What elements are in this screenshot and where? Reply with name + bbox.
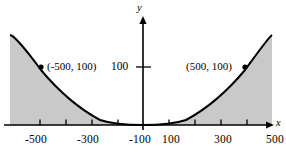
x-tick-label-300: 300 [214, 134, 232, 146]
x-tick-label-100: 100 [162, 134, 180, 146]
y-axis-arrowhead [139, 16, 146, 24]
point-marker-left [38, 64, 43, 69]
point-label-right: (500, 100) [186, 61, 232, 72]
x-tick-label-neg500: -500 [25, 134, 47, 146]
x-tick-label-neg300: -300 [77, 134, 99, 146]
point-label-left: (-500, 100) [47, 61, 97, 72]
parabola-plot [0, 0, 286, 155]
point-marker-right [242, 64, 247, 69]
x-axis-label: x [276, 118, 281, 129]
y-tick-label-100: 100 [111, 61, 128, 73]
x-tick-label-neg100: -100 [129, 134, 151, 146]
x-tick-label-500: 500 [266, 134, 284, 146]
y-axis-label: y [137, 3, 142, 14]
graph-figure: y x 100 (-500, 100) (500, 100) -500 -300… [0, 0, 286, 155]
